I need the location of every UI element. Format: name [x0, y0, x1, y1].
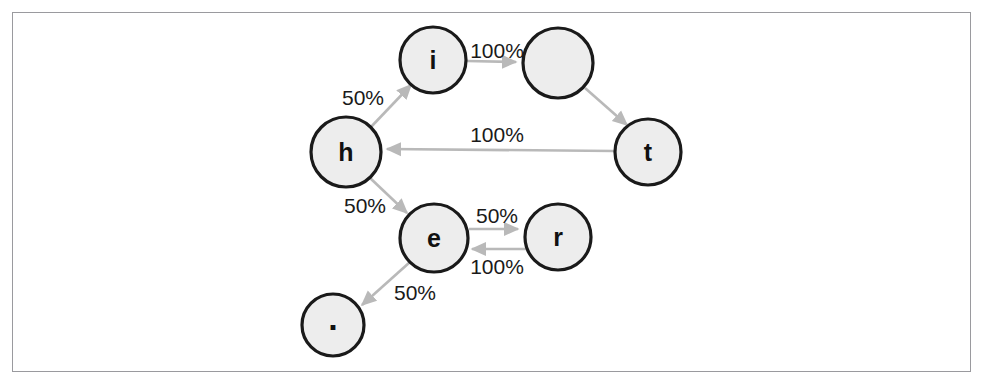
edge-label-e-to-period: 50%: [394, 281, 436, 304]
node-label-i: i: [430, 46, 437, 74]
edge-label-i-to-space: 100%: [470, 39, 524, 62]
node-label-h: h: [338, 138, 353, 166]
edge-label-t-to-h: 100%: [470, 123, 524, 146]
edge-label-h-to-e: 50%: [344, 194, 386, 217]
node-layer: [302, 27, 681, 356]
edge-label-h-to-i: 50%: [342, 86, 384, 109]
figure-container: i t h e r . 50% 100% 100% 50% 50% 100% 5…: [0, 0, 987, 385]
state-transition-diagram: i t h e r . 50% 100% 100% 50% 50% 100% 5…: [0, 0, 987, 385]
edge-space-to-t: [585, 88, 627, 125]
node-label-e: e: [427, 224, 441, 252]
node-space[interactable]: [523, 28, 593, 98]
edge-label-e-to-r: 50%: [476, 204, 518, 227]
node-label-period: .: [328, 299, 337, 337]
edge-t-to-h: [387, 149, 614, 151]
node-label-t: t: [644, 138, 653, 166]
edge-label-r-to-e: 100%: [470, 255, 524, 278]
node-label-r: r: [553, 223, 563, 251]
